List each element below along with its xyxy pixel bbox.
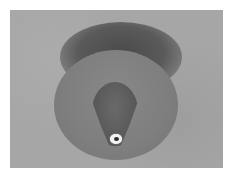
nozzle-tip [110, 134, 122, 144]
photo [10, 10, 223, 168]
nozzle-hole [114, 137, 119, 141]
